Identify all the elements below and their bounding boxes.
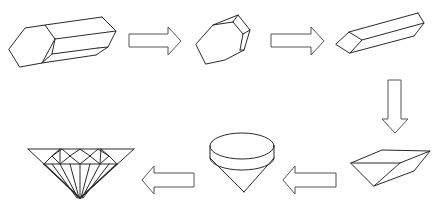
stage-wedge-block — [351, 150, 430, 186]
stage-cleaved-crystal — [196, 15, 250, 64]
stage-rough-crystal — [9, 17, 116, 67]
arrow-left-icon — [283, 166, 336, 194]
stage-rounded-cone — [210, 133, 274, 192]
stage-brilliant-cut — [28, 149, 134, 198]
stage-sawn-bar — [336, 13, 424, 53]
arrow-right-icon — [129, 27, 181, 55]
arrow-down-icon — [382, 80, 408, 133]
arrow-right-icon — [271, 27, 324, 55]
arrow-left-icon — [142, 166, 194, 194]
diamond-cutting-diagram: Diamond cutting process from rough cryst… — [0, 0, 441, 212]
